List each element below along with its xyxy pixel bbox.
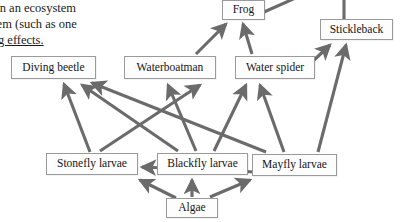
node-water-spider[interactable]: Water spider [235, 56, 315, 79]
node-frog[interactable]: Frog [222, 0, 265, 20]
edge-mayfly-to-diving-beetle [92, 83, 266, 152]
edge-mayfly-to-stickleback [318, 45, 346, 152]
node-water-spider-label: Water spider [246, 62, 304, 74]
node-stonefly-larvae-label: Stonefly larvae [57, 158, 127, 170]
edge-algae-to-stonefly [140, 180, 176, 198]
node-algae[interactable]: Algae [166, 198, 218, 218]
edge-stonefly-to-diving-beetle [64, 84, 90, 152]
node-blackfly-larvae[interactable]: Blackfly larvae [157, 153, 248, 175]
node-waterboatman[interactable]: Waterboatman [124, 56, 216, 79]
node-waterboatman-label: Waterboatman [137, 62, 204, 74]
edge-water-spider-to-frog [243, 24, 252, 54]
edge-blackfly-to-diving-beetle [82, 85, 178, 151]
edge-frog-to-offscreen-top-right [264, 0, 300, 12]
node-stonefly-larvae[interactable]: Stonefly larvae [46, 153, 138, 175]
node-blackfly-larvae-label: Blackfly larvae [167, 158, 238, 170]
edge-stonefly-to-waterboatman [100, 85, 200, 151]
edge-waterboatman-to-frog [196, 24, 226, 54]
node-stickleback[interactable]: Stickleback [320, 19, 393, 40]
node-diving-beetle[interactable]: Diving beetle [11, 56, 96, 79]
food-web-diagram-page: gs in an ecosystem ystem (such as one hi… [0, 0, 401, 222]
node-diving-beetle-label: Diving beetle [22, 62, 84, 74]
node-stickleback-label: Stickleback [330, 24, 384, 36]
node-mayfly-larvae[interactable]: Mayfly larvae [252, 154, 337, 176]
edge-mayfly-to-water-spider [260, 85, 284, 152]
edge-algae-to-mayfly [210, 180, 250, 197]
node-algae-label: Algae [178, 202, 205, 214]
node-frog-label: Frog [233, 4, 255, 16]
node-mayfly-larvae-label: Mayfly larvae [262, 159, 327, 171]
